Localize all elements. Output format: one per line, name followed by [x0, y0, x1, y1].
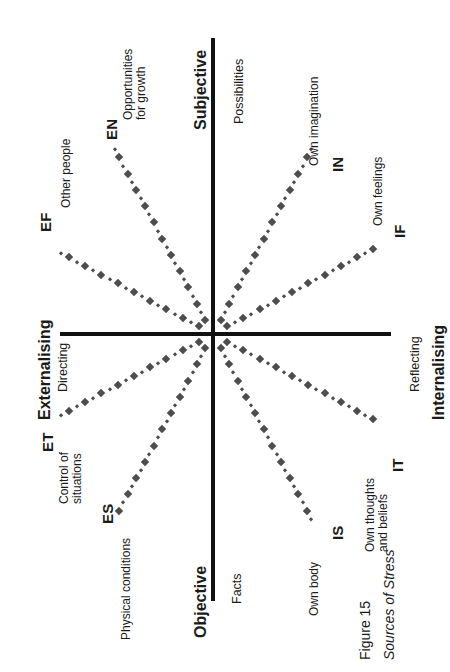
ray-marker-et — [113, 380, 121, 388]
ray-marker-if — [250, 312, 254, 316]
ray-marker-is — [285, 474, 293, 482]
ray-marker-is — [251, 409, 259, 417]
axis-label-subjective: Subjective — [192, 50, 210, 130]
ray-marker-it — [233, 344, 237, 348]
ray-marker-en — [156, 229, 160, 233]
ray-marker-in — [294, 169, 302, 177]
ray-marker-et — [173, 353, 177, 357]
ray-marker-it — [239, 346, 247, 354]
ray-marker-in — [216, 316, 224, 324]
ray-marker-it — [337, 398, 345, 406]
ray-marker-en — [201, 316, 209, 324]
ray-marker-en — [165, 245, 169, 249]
ray-marker-is — [275, 452, 279, 456]
type-description-in: Own imagination — [308, 77, 321, 166]
ray-marker-it — [315, 387, 319, 391]
ray-marker-is — [240, 387, 244, 391]
ray-marker-it — [272, 363, 280, 371]
ray-marker-es — [158, 425, 166, 433]
sources-of-stress-figure: Subjective Possibilities Objective Facts… — [0, 0, 450, 672]
ray-marker-ef — [81, 262, 89, 270]
ray-marker-ef — [65, 253, 73, 261]
ray-marker-is — [294, 490, 302, 498]
ray-marker-en — [149, 218, 157, 226]
ray-marker-if — [315, 277, 319, 281]
ray-marker-ef — [173, 312, 177, 316]
type-description-is: Own body — [308, 562, 321, 616]
caption-title: Sources of Stress — [382, 550, 398, 661]
ray-marker-if — [233, 320, 237, 324]
axis-label-internalising: Internalising — [430, 325, 448, 420]
ray-marker-is — [225, 360, 233, 368]
ray-marker-in — [285, 186, 293, 194]
ray-marker-in — [240, 277, 244, 281]
ray-marker-es — [173, 403, 177, 407]
ray-marker-et — [189, 344, 193, 348]
ray-marker-in — [251, 251, 259, 259]
ray-marker-if — [298, 286, 302, 290]
ray-marker-is — [232, 371, 236, 375]
ray-marker-en — [139, 196, 143, 200]
ray-marker-if — [331, 268, 335, 272]
ray-marker-is — [309, 517, 313, 521]
ray-marker-if — [363, 251, 367, 255]
ray-marker-es — [199, 354, 203, 358]
ray-marker-ef — [59, 251, 63, 255]
ray-marker-it — [353, 406, 361, 414]
ray-marker-is — [266, 436, 270, 440]
ray-marker-is — [258, 419, 262, 423]
ray-marker-it — [298, 379, 302, 383]
ray-marker-it — [288, 372, 296, 380]
ray-marker-et — [195, 337, 203, 345]
type-description-it: Own thoughts and beliefs — [364, 478, 391, 552]
ray-marker-es — [139, 468, 143, 472]
ray-marker-in — [225, 299, 233, 307]
ray-marker-if — [239, 314, 247, 322]
ray-marker-ef — [189, 320, 193, 324]
ray-marker-it — [282, 370, 286, 374]
ray-marker-et — [97, 389, 105, 397]
caption-number: Figure 15 — [358, 601, 374, 660]
ray-marker-if — [255, 305, 263, 313]
ray-marker-in — [223, 310, 227, 314]
ray-marker-if — [223, 322, 231, 330]
ray-marker-in — [266, 229, 270, 233]
ray-marker-in — [268, 218, 276, 226]
type-code-is: IS — [330, 525, 347, 540]
ray-marker-it — [363, 413, 367, 417]
ray-marker-is — [303, 506, 311, 514]
ray-marker-in — [277, 202, 285, 210]
type-description-et: Control of situations — [58, 452, 85, 504]
ray-marker-if — [266, 303, 270, 307]
ray-marker-es — [122, 501, 126, 505]
ray-marker-es — [147, 452, 151, 456]
ray-marker-ef — [113, 279, 121, 287]
ray-marker-if — [272, 296, 280, 304]
type-code-if: IF — [392, 224, 409, 238]
axis-label-externalising: Externalising — [36, 320, 54, 420]
ray-marker-ef — [124, 286, 128, 290]
ray-marker-es — [201, 344, 209, 352]
ray-marker-is — [216, 344, 224, 352]
type-code-et: ET — [40, 432, 57, 452]
ray-marker-is — [277, 458, 285, 466]
ray-marker-et — [130, 372, 138, 380]
ray-marker-ef — [97, 270, 105, 278]
ray-marker-if — [347, 260, 351, 264]
ray-marker-if — [282, 294, 286, 298]
ray-marker-if — [337, 262, 345, 270]
ray-marker-es — [130, 484, 134, 488]
ray-marker-is — [283, 468, 287, 472]
ray-marker-it — [320, 389, 328, 397]
ray-marker-es — [165, 419, 169, 423]
ray-marker-es — [191, 371, 195, 375]
ray-marker-es — [149, 441, 157, 449]
ray-marker-is — [249, 403, 253, 407]
ray-marker-if — [288, 288, 296, 296]
ray-marker-it — [304, 380, 312, 388]
ray-marker-in — [275, 212, 279, 216]
type-code-it: IT — [390, 458, 407, 472]
ray-marker-en — [193, 299, 201, 307]
ray-marker-if — [304, 279, 312, 287]
ray-marker-et — [108, 387, 112, 391]
